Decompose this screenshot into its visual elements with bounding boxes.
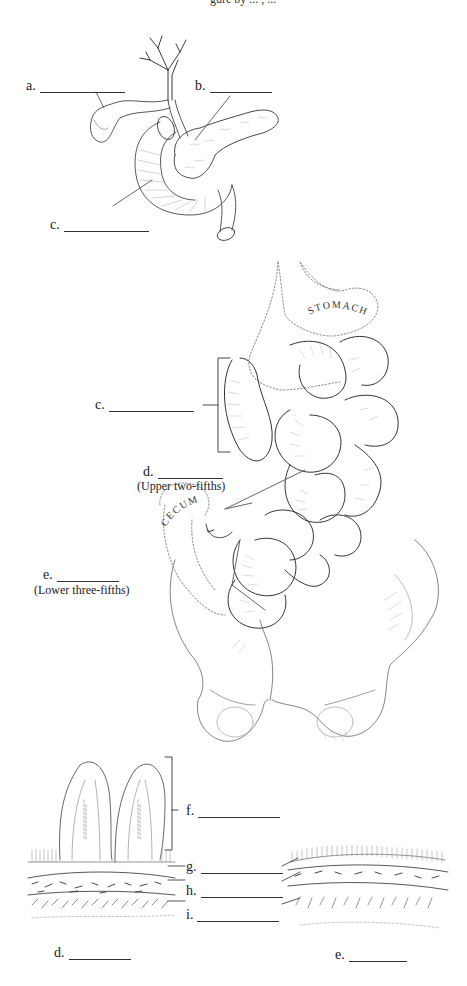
- label-h: h.: [186, 884, 283, 898]
- label-e-note: (Lower three-fifths): [34, 584, 130, 596]
- answer-blank-i[interactable]: [197, 911, 279, 922]
- label-e-letter: e.: [43, 567, 53, 582]
- label-c: c.: [95, 398, 194, 412]
- stomach-label: STOMACH: [306, 299, 370, 318]
- answer-blank-caption-d[interactable]: [69, 949, 131, 960]
- duodenum-pancreas-drawing: [90, 36, 278, 243]
- answer-blank-c[interactable]: [109, 401, 194, 412]
- label-c-letter: c.: [95, 397, 105, 412]
- answer-blank-g[interactable]: [201, 863, 283, 874]
- label-i: i.: [186, 908, 279, 922]
- label-f: f.: [186, 804, 280, 818]
- answer-blank-d[interactable]: [158, 468, 223, 479]
- answer-blank-a[interactable]: [40, 82, 125, 93]
- anatomy-illustration: STOMACH CECUM: [0, 0, 467, 986]
- cecum-label: CECUM: [158, 493, 200, 528]
- caption-e: e.: [335, 948, 407, 962]
- caption-e-letter: e.: [335, 947, 345, 962]
- answer-blank-caption-e[interactable]: [349, 951, 407, 962]
- label-g-letter: g.: [186, 859, 197, 874]
- label-d: d.: [143, 465, 223, 479]
- label-e: e.: [43, 568, 119, 582]
- label-h-letter: h.: [186, 883, 197, 898]
- villi-histology-drawing: [28, 757, 448, 928]
- label-c-top: c.: [50, 218, 149, 232]
- label-f-letter: f.: [186, 803, 194, 818]
- caption-d-letter: d.: [54, 945, 65, 960]
- label-d-letter: d.: [143, 464, 154, 479]
- answer-blank-c-top[interactable]: [64, 221, 149, 232]
- label-a-letter: a.: [26, 78, 36, 93]
- small-intestine-drawing: [160, 262, 439, 741]
- label-i-letter: i.: [186, 907, 193, 922]
- label-b-letter: b.: [195, 78, 206, 93]
- label-a: a.: [26, 79, 125, 93]
- caption-d: d.: [54, 946, 131, 960]
- answer-blank-h[interactable]: [201, 887, 283, 898]
- label-b: b.: [195, 79, 272, 93]
- answer-blank-f[interactable]: [198, 807, 280, 818]
- answer-blank-b[interactable]: [210, 82, 272, 93]
- label-c-top-letter: c.: [50, 217, 60, 232]
- label-d-note: (Upper two-fifths): [137, 480, 225, 492]
- label-g: g.: [186, 860, 283, 874]
- answer-blank-e[interactable]: [57, 571, 119, 582]
